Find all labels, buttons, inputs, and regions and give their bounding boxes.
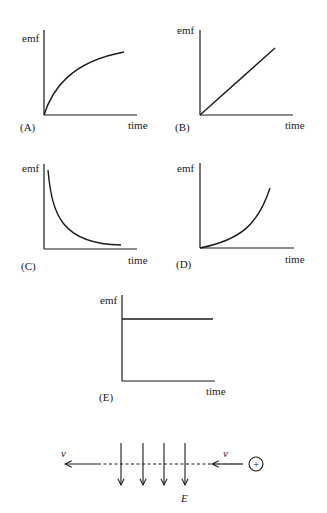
charge-symbol: + [253, 458, 259, 470]
y-axis-label: emf [177, 162, 194, 174]
graph-a: emf time (A) [20, 30, 148, 134]
field-diagram: v v E + [61, 443, 263, 504]
x-axis-label: time [206, 385, 226, 397]
x-axis-label: time [285, 119, 305, 131]
curve-a [44, 52, 124, 115]
graph-e: emf time (E) [99, 294, 226, 404]
curve-c [48, 170, 121, 245]
graph-c: emf time (C) [21, 162, 148, 273]
y-axis-label: emf [22, 32, 39, 44]
y-axis-label: emf [100, 294, 117, 306]
graph-label: (B) [175, 121, 190, 134]
y-axis-label: emf [22, 162, 39, 174]
curve-b [200, 48, 275, 115]
x-axis-label: time [128, 254, 148, 266]
graph-b: emf time (B) [175, 24, 305, 134]
graph-label: (D) [176, 258, 192, 271]
velocity-label-right: v [223, 447, 228, 459]
graph-d: emf time (D) [176, 162, 305, 271]
field-label: E [180, 492, 188, 504]
graph-label: (E) [99, 391, 113, 404]
x-axis-label: time [128, 119, 148, 131]
curve-d [200, 188, 270, 248]
y-axis-label: emf [177, 24, 194, 36]
velocity-label-left: v [61, 447, 66, 459]
graph-label: (A) [20, 121, 36, 134]
figure-canvas: emf time (A) emf time (B) emf time (C) e… [0, 0, 327, 513]
x-axis-label: time [285, 253, 305, 265]
graph-label: (C) [21, 260, 36, 273]
